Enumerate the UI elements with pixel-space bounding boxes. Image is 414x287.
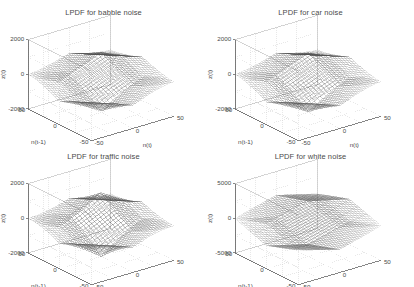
x-tick-label: 0 xyxy=(343,128,346,134)
y-tick-label: 0 xyxy=(53,267,56,273)
y-tick-label: 50 xyxy=(18,107,25,113)
z-tick-label: 0 xyxy=(21,215,24,221)
surface-mesh xyxy=(28,50,174,111)
figure-canvas: LPDF for babble noise -200002000z(t)-500… xyxy=(0,0,414,287)
x-tick-label: 50 xyxy=(177,115,184,121)
axes-3d: -200002000z(t)-50050-50050n(t-1)n(t) xyxy=(0,0,207,143)
z-axis-label: z(t) xyxy=(0,70,6,79)
plot-panel-traffic-noise: LPDF for traffic noise -200002000z(t)-50… xyxy=(0,144,207,287)
axes-3d: -500005000z(t)-50050-50050n(t-1)n(t) xyxy=(207,144,414,287)
x-tick-label: 50 xyxy=(384,115,391,121)
z-tick-label: 5000 xyxy=(217,180,231,186)
surface-mesh xyxy=(235,194,381,250)
z-tick-label: 0 xyxy=(228,71,231,77)
z-axis-label: z(t) xyxy=(0,214,6,223)
plot-panel-car-noise: LPDF for car noise -200002000z(t)-50050-… xyxy=(207,0,414,143)
y-tick-label: 50 xyxy=(18,251,25,257)
y-axis-label: n(t-1) xyxy=(31,283,46,287)
y-tick-label: 0 xyxy=(260,267,263,273)
axes-3d-graphic xyxy=(0,144,207,287)
x-tick-label: 50 xyxy=(384,259,391,265)
y-tick-label: 0 xyxy=(53,123,56,129)
x-tick-label: 0 xyxy=(343,272,346,278)
x-tick-label: 0 xyxy=(136,128,139,134)
x-tick-label: 50 xyxy=(177,259,184,265)
z-tick-label: 0 xyxy=(228,215,231,221)
x-tick-label: 0 xyxy=(136,272,139,278)
z-axis-label: z(t) xyxy=(206,70,213,79)
plot-panel-babble-noise: LPDF for babble noise -200002000z(t)-500… xyxy=(0,0,207,143)
z-tick-label: 2000 xyxy=(10,180,24,186)
y-tick-label: 0 xyxy=(260,123,263,129)
z-axis-label: z(t) xyxy=(206,214,213,223)
plot-panel-white-noise: LPDF for white noise -500005000z(t)-5005… xyxy=(207,144,414,287)
y-tick-label: -50 xyxy=(79,283,88,287)
axes-3d-graphic xyxy=(207,144,414,287)
axes-3d: -200002000z(t)-50050-50050n(t-1)n(t) xyxy=(207,0,414,143)
axes-3d-graphic xyxy=(207,0,414,143)
z-tick-label: 2000 xyxy=(217,36,231,42)
axes-3d-graphic xyxy=(0,0,207,143)
surface-mesh xyxy=(28,193,174,257)
axes-3d: -200002000z(t)-50050-50050n(t-1)n(t) xyxy=(0,144,207,287)
z-tick-label: 2000 xyxy=(10,36,24,42)
y-axis-label: n(t-1) xyxy=(238,283,253,287)
y-tick-label: -50 xyxy=(286,283,295,287)
y-tick-label: 50 xyxy=(225,251,232,257)
z-tick-label: 0 xyxy=(21,71,24,77)
y-tick-label: 50 xyxy=(225,107,232,113)
